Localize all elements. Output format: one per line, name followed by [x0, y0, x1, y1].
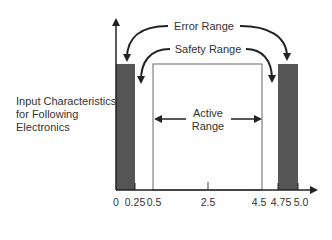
- tick-0-5: 0.5: [147, 196, 162, 208]
- side-label-line3: Electronics: [16, 121, 116, 134]
- tick-5-0: 5.0: [294, 196, 309, 208]
- active-range-label: Active Range: [192, 107, 224, 133]
- tick-2-5: 2.5: [201, 196, 216, 208]
- error-range-arrow-left: [127, 26, 168, 58]
- safety-range-label: Safety Range: [175, 43, 242, 56]
- active-label-line1: Active: [192, 107, 224, 120]
- side-label-line2: for Following: [16, 108, 116, 121]
- tick-4-5: 4.5: [252, 196, 267, 208]
- error-range-label: Error Range: [174, 20, 234, 33]
- tick-0-25: 0.25: [125, 196, 145, 208]
- tick-4-75: 4.75: [271, 196, 291, 208]
- tick-0: 0: [113, 196, 119, 208]
- side-label-line1: Input Characteristics: [16, 95, 116, 108]
- active-label-line2: Range: [192, 120, 224, 133]
- error-bar-high: [278, 64, 298, 190]
- error-bar-low: [116, 64, 135, 190]
- side-label: Input Characteristics for Following Elec…: [16, 95, 116, 134]
- error-range-arrow-right: [240, 26, 287, 57]
